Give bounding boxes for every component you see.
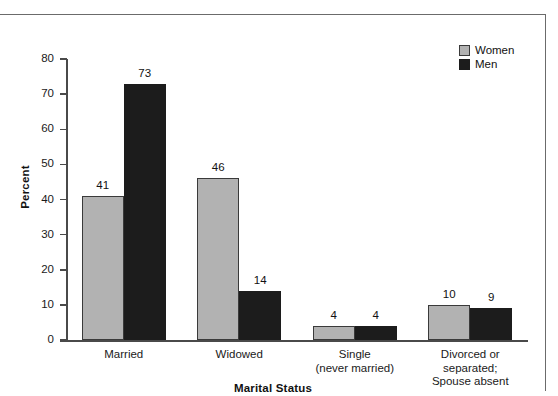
y-axis-tick-label: 80: [0, 53, 54, 65]
bar-value-label: 41: [82, 180, 124, 192]
bar-men-0: [124, 84, 166, 340]
bar-women-3: [428, 305, 470, 340]
legend-item-women[interactable]: Women: [459, 44, 514, 57]
y-axis-tick-label: 30: [0, 229, 54, 241]
chart-legend: WomenMen: [459, 44, 514, 71]
y-axis-tick-label: 10: [0, 299, 54, 311]
bar-value-label: 9: [470, 292, 512, 304]
x-axis-category-label: Divorced or separated; Spouse absent: [390, 348, 550, 389]
legend-item-men[interactable]: Men: [459, 58, 514, 71]
bar-value-label: 10: [428, 289, 470, 301]
y-axis-tick-label: 60: [0, 123, 54, 135]
women-swatch-icon: [459, 45, 470, 56]
bar-value-label: 73: [124, 68, 166, 80]
bar-value-label: 4: [355, 310, 397, 322]
y-axis-title: Percent: [19, 147, 31, 227]
y-axis-tick-label: 0: [0, 334, 54, 346]
men-swatch-icon: [459, 59, 470, 70]
bar-value-label: 4: [313, 310, 355, 322]
x-axis-line: [60, 340, 528, 342]
bar-men-1: [239, 291, 281, 340]
y-axis-tick-label: 20: [0, 264, 54, 276]
legend-item-label: Women: [475, 45, 514, 57]
figure-frame: Percent 01020304050607080 4173461444109 …: [0, 14, 546, 391]
bar-value-label: 46: [197, 162, 239, 174]
bar-women-1: [197, 178, 239, 340]
y-axis-tick-label: 70: [0, 88, 54, 100]
bar-men-3: [470, 308, 512, 340]
bar-value-label: 14: [239, 275, 281, 287]
bar-men-2: [355, 326, 397, 340]
bar-women-0: [82, 196, 124, 340]
bar-women-2: [313, 326, 355, 340]
legend-item-label: Men: [475, 59, 497, 71]
plot-area: 4173461444109: [66, 59, 528, 340]
